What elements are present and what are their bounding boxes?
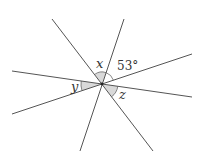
angle-diagram: x 53° y z (0, 0, 201, 159)
label-z: z (118, 87, 126, 102)
label-y: y (70, 79, 79, 94)
label-53-degrees: 53° (117, 59, 138, 73)
angle-53-arc (106, 73, 113, 81)
intersection-point (101, 83, 104, 86)
label-x: x (96, 56, 104, 71)
